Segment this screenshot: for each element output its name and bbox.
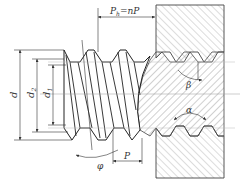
screw-thread [64,50,150,140]
label-lead: Ph=nP [109,6,140,17]
label-d2: d2 [25,88,37,98]
thread-diagram: d d2 d1 Ph=nP φ P β α [0,0,249,190]
figure-caption [0,178,249,186]
label-d: d [8,92,19,98]
label-d1: d1 [41,88,53,98]
label-pitch: P [123,151,131,161]
label-beta: β [185,80,191,90]
label-alpha: α [186,105,192,115]
label-phi: φ [97,161,104,171]
